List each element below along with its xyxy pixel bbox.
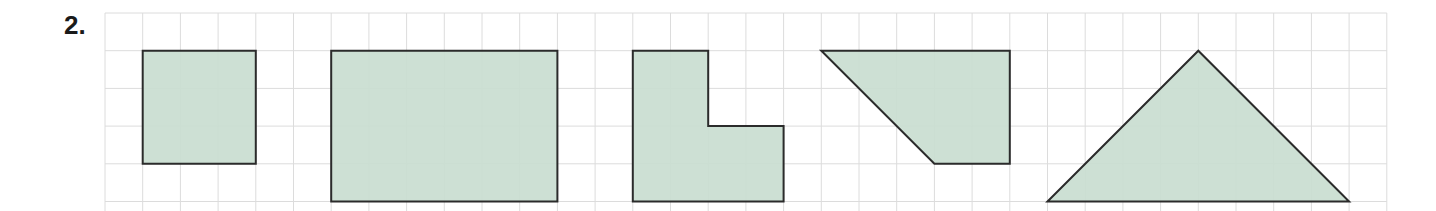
shape-l-shape xyxy=(633,51,784,202)
shape-rectangle xyxy=(331,51,557,202)
shape-square xyxy=(143,51,256,164)
grid-diagram xyxy=(0,0,1436,211)
shape-trapezoid xyxy=(821,51,1010,164)
